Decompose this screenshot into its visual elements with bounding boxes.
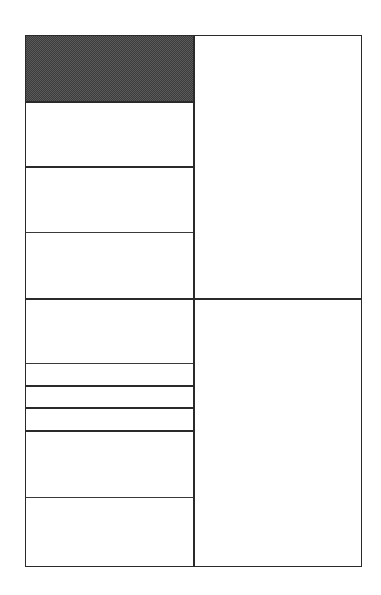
bleed-through-text	[8, 2, 288, 24]
layout-grid-diagram	[25, 35, 362, 567]
outer-frame	[25, 35, 362, 567]
